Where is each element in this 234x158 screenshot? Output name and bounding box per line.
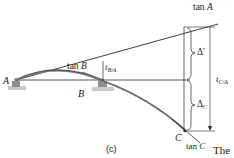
tan-c-var: C	[199, 141, 205, 151]
tan-c-prefix: tan	[186, 141, 199, 151]
support-b	[92, 81, 114, 91]
t-c-a-sub: C/A	[219, 79, 228, 85]
delta-c-sub: C	[203, 104, 207, 110]
brace-delta-c	[187, 81, 195, 130]
elastic-curve-diagram: A B tan B tB/A tan A Δ' ΔC tC/A C tan C …	[0, 0, 234, 158]
label-delta-prime: Δ'	[197, 48, 205, 58]
label-tan-b: tan B	[67, 62, 87, 72]
label-tan-c: tan C	[186, 142, 205, 151]
t-b-a-sub: B/A	[108, 67, 117, 73]
elastic-curve	[16, 70, 186, 131]
label-point-a: A	[3, 76, 9, 86]
tan-b-var: B	[81, 61, 87, 71]
tan-a-prefix: tan	[193, 2, 207, 12]
label-delta-c: ΔC	[197, 100, 207, 110]
figure-caption: (c)	[106, 145, 117, 154]
tan-a-var: A	[207, 2, 213, 12]
label-point-c: C	[175, 133, 182, 143]
label-t-c-a: tC/A	[216, 75, 228, 85]
tan-b-prefix: tan	[67, 61, 81, 71]
label-point-b: B	[78, 89, 84, 99]
label-t-b-a: tB/A	[105, 63, 117, 73]
brace-delta-prime	[187, 28, 195, 79]
label-tan-a: tan A	[193, 3, 213, 13]
trailing-text: The	[213, 145, 230, 156]
